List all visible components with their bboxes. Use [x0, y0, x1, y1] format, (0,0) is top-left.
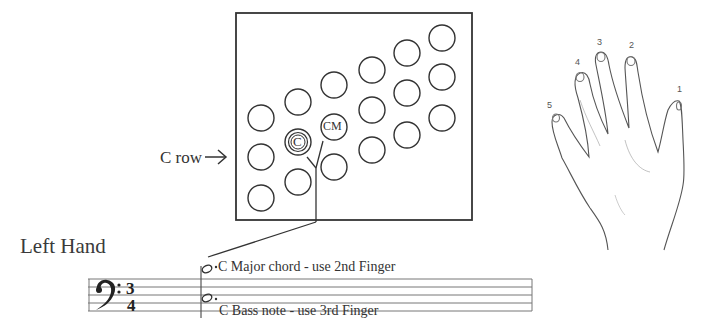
- finger-number-2: 2: [629, 40, 634, 50]
- bass-button[interactable]: [359, 57, 385, 83]
- left-hand-title: Left Hand: [20, 234, 106, 259]
- finger-number-1: 1: [677, 84, 682, 94]
- upper-half-note: [201, 264, 217, 275]
- c-row-label: C row: [160, 148, 202, 168]
- bass-button[interactable]: [394, 122, 420, 148]
- bass-button[interactable]: [285, 89, 311, 115]
- bass-button[interactable]: [429, 105, 455, 131]
- finger-number-5: 5: [547, 100, 552, 110]
- bass-button[interactable]: [394, 80, 420, 106]
- right-arrow-icon: [205, 150, 226, 164]
- bass-button[interactable]: [429, 64, 455, 90]
- lower-half-note: [201, 293, 217, 304]
- bass-button[interactable]: [248, 105, 274, 131]
- c-button-label: C: [293, 134, 302, 150]
- accordion-bass-diagram: 3 4: [0, 0, 704, 335]
- bass-button[interactable]: [285, 169, 311, 195]
- time-signature-bottom: 4: [127, 296, 136, 315]
- bass-button[interactable]: [429, 25, 455, 51]
- bass-button[interactable]: [321, 72, 347, 98]
- bass-note-label: C Bass note - use 3rd Finger: [219, 303, 378, 319]
- bass-button[interactable]: [359, 97, 385, 123]
- bass-button[interactable]: [248, 185, 274, 211]
- bass-button-panel: [236, 13, 472, 220]
- bass-buttons: [248, 25, 455, 211]
- finger-number-4: 4: [575, 57, 580, 67]
- bass-button[interactable]: [394, 40, 420, 66]
- bass-button[interactable]: [359, 137, 385, 163]
- finger-number-3: 3: [597, 37, 602, 47]
- left-hand-illustration: [552, 52, 684, 250]
- chord-note-label: C Major chord - use 2nd Finger: [218, 259, 395, 275]
- bass-button[interactable]: [321, 154, 347, 180]
- cm-button-label: CM: [323, 119, 342, 134]
- bass-button[interactable]: [248, 144, 274, 170]
